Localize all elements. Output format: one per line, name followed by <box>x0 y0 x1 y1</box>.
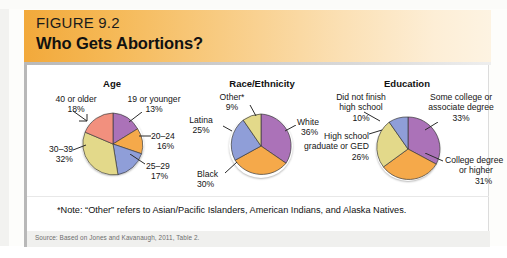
chart-heading-race: Race/Ethnicity <box>202 78 322 89</box>
chart-heading-age: Age <box>57 78 167 89</box>
leader-age-20-24 <box>139 131 153 139</box>
leader-age-19 <box>126 112 148 128</box>
label-edu-high-school-value: 26% <box>352 152 369 162</box>
page-edge-left <box>0 0 9 258</box>
note-separator <box>27 196 489 197</box>
label-edu-did-not-finish-line1: Did not finish <box>336 92 386 102</box>
label-race-white-text: White <box>297 117 319 127</box>
label-age-30-39-value: 32% <box>56 154 73 164</box>
figure-content: Age Race/Ethnicity Education 40 or older… <box>24 65 489 231</box>
label-edu-college-degree-line1: College degree <box>445 155 503 165</box>
label-edu-high-school-line2: graduate or GED <box>304 141 369 151</box>
label-edu-high-school-line1: High school <box>324 131 369 141</box>
label-edu-some-college-line1: Some college or <box>430 92 492 102</box>
label-race-other-text: Other* <box>220 92 245 102</box>
label-age-19-or-younger-text: 19 or younger <box>127 94 180 104</box>
label-age-20-24-text: 20–24 <box>151 131 175 141</box>
figure-title: Who Gets Abortions? <box>36 33 491 53</box>
label-age-20-24: 20–24 16% <box>151 131 175 152</box>
label-age-25-29: 25–29 17% <box>146 161 170 182</box>
leader-edu-some-college <box>425 122 441 134</box>
leader-race-other <box>249 105 261 119</box>
label-edu-did-not-finish: Did not finish high school 10% <box>317 92 405 123</box>
label-age-30-39-text: 30–39 <box>49 144 73 154</box>
label-race-other-value: 9% <box>226 102 238 112</box>
leader-edu-college-degree <box>425 153 447 167</box>
leader-age-25-29 <box>130 154 148 168</box>
label-edu-some-college: Some college or associate degree 33% <box>413 92 507 123</box>
label-age-40-or-older-text: 40 or older <box>55 94 96 104</box>
leader-race-latina <box>223 124 235 136</box>
leader-edu-high-school <box>369 129 385 139</box>
label-race-black-value: 30% <box>197 179 214 189</box>
label-age-30-39: 30–39 32% <box>27 144 73 165</box>
figure-number: FIGURE 9.2 <box>36 14 491 32</box>
leader-edu-dnf <box>364 110 386 126</box>
page-edge-bottom <box>0 246 507 258</box>
label-age-20-24-value: 16% <box>157 141 174 151</box>
label-race-black-text: Black <box>197 169 218 179</box>
leader-age-40 <box>73 111 99 127</box>
leader-race-black <box>225 162 241 176</box>
label-edu-college-degree: College degree or higher 31% <box>445 155 503 186</box>
source-text: Source: Based on Jones and Kavanaugh, 20… <box>35 234 200 241</box>
label-age-19-or-younger: 19 or younger 13% <box>109 94 199 115</box>
label-edu-college-degree-line2: or higher <box>459 165 493 175</box>
figure-container: FIGURE 9.2 Who Gets Abortions? Age Race/… <box>0 0 507 258</box>
label-race-latina-text: Latina <box>189 115 212 125</box>
label-age-25-29-value: 17% <box>151 171 168 181</box>
label-edu-some-college-line2: associate degree <box>428 102 493 112</box>
chart-heading-education: Education <box>347 78 467 89</box>
label-race-black: Black 30% <box>197 169 218 190</box>
label-edu-college-degree-value: 31% <box>475 176 492 186</box>
source-strip: Source: Based on Jones and Kavanaugh, 20… <box>24 231 490 247</box>
label-edu-some-college-value: 33% <box>452 113 469 123</box>
label-edu-high-school: High school graduate or GED 26% <box>295 131 369 162</box>
page-edge-top <box>0 0 507 9</box>
leader-age-30-39 <box>73 144 89 154</box>
figure-banner: FIGURE 9.2 Who Gets Abortions? <box>24 10 491 62</box>
label-race-latina-value: 25% <box>192 125 209 135</box>
figure-note: *Note: “Other” refers to Asian/Pacific I… <box>57 205 406 215</box>
label-age-25-29-text: 25–29 <box>146 161 170 171</box>
label-race-latina: Latina 25% <box>175 115 227 136</box>
